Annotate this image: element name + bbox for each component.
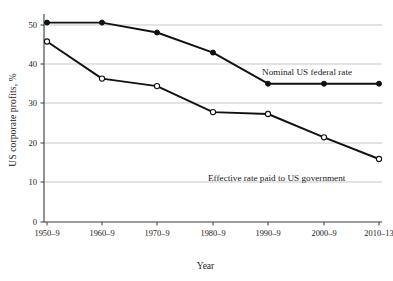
data-point — [155, 30, 160, 35]
y-tick-label-40: 40 — [28, 59, 37, 69]
line-chart-svg: 50 40 30 20 10 0 1950–9 1960–9 1970–9 19… — [0, 0, 393, 281]
x-axis-label: Year — [197, 261, 215, 271]
data-point — [265, 111, 270, 116]
data-point — [321, 135, 326, 140]
y-tick-label-20: 20 — [28, 138, 37, 148]
y-tick-label-10: 10 — [28, 177, 37, 187]
y-tick-label-50: 50 — [28, 20, 37, 30]
x-tick-label-2: 1970–9 — [144, 229, 169, 238]
chart-container: 50 40 30 20 10 0 1950–9 1960–9 1970–9 19… — [0, 0, 393, 281]
data-point — [266, 81, 271, 86]
annotation-effective: Effective rate paid to US government — [208, 173, 346, 183]
gridlines — [44, 25, 382, 182]
x-tick-label-4: 1990–9 — [255, 229, 280, 238]
data-point — [211, 50, 216, 55]
data-point — [99, 76, 104, 81]
data-point — [376, 156, 381, 161]
x-tick-label-3: 1980–9 — [200, 229, 225, 238]
y-tick-label-0: 0 — [33, 217, 37, 227]
series-layer — [44, 20, 381, 161]
x-axis-label-wrap: Year — [0, 261, 393, 271]
data-point — [210, 110, 215, 115]
annotation-nominal: Nominal US federal rate — [262, 67, 352, 77]
data-point — [100, 20, 105, 25]
data-point — [44, 39, 49, 44]
x-tick-label-0: 1950–9 — [34, 229, 59, 238]
x-tick-label-6: 2010–13 — [364, 229, 393, 238]
y-tick-label-30: 30 — [28, 98, 37, 108]
data-point — [154, 84, 159, 89]
x-tick-label-1: 1960–9 — [89, 229, 114, 238]
series-line — [47, 42, 379, 160]
x-tick-label-5: 2000–9 — [311, 229, 336, 238]
data-point — [377, 81, 382, 86]
data-point — [322, 81, 327, 86]
data-point — [45, 20, 50, 25]
